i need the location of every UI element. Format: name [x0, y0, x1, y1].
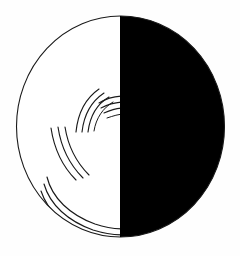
emblem-canvas [0, 0, 240, 256]
emblem-artwork [0, 0, 240, 256]
